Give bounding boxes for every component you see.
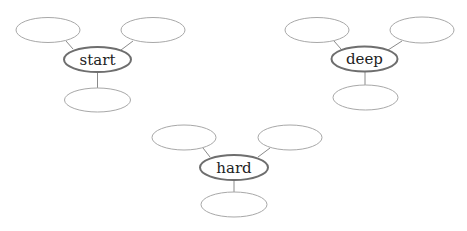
leaf-deep-top-right[interactable] — [390, 17, 454, 43]
leaf-deep-bottom[interactable] — [333, 85, 398, 110]
leaf-start-bottom[interactable] — [65, 88, 131, 112]
web-hard: hard — [152, 125, 322, 217]
web-deep: deep — [285, 17, 454, 110]
link-start-left — [66, 41, 73, 49]
leaf-hard-bottom[interactable] — [201, 192, 267, 217]
leaf-hard-top-right[interactable] — [258, 125, 322, 150]
leaf-start-top-right[interactable] — [121, 18, 185, 43]
web-start: start — [16, 18, 185, 113]
link-deep-right — [388, 41, 402, 50]
leaf-hard-top-left[interactable] — [152, 125, 216, 150]
hub-hard-label: hard — [216, 159, 252, 177]
leaf-start-top-left[interactable] — [16, 18, 80, 43]
link-hard-left — [203, 148, 210, 157]
link-start-right — [121, 41, 133, 50]
hub-start-label: start — [80, 51, 116, 69]
hub-deep-label: deep — [346, 50, 383, 68]
leaf-deep-top-left[interactable] — [285, 18, 349, 43]
link-deep-left — [334, 41, 341, 49]
word-web-canvas: start deep hard — [0, 0, 467, 231]
link-hard-right — [258, 148, 270, 157]
